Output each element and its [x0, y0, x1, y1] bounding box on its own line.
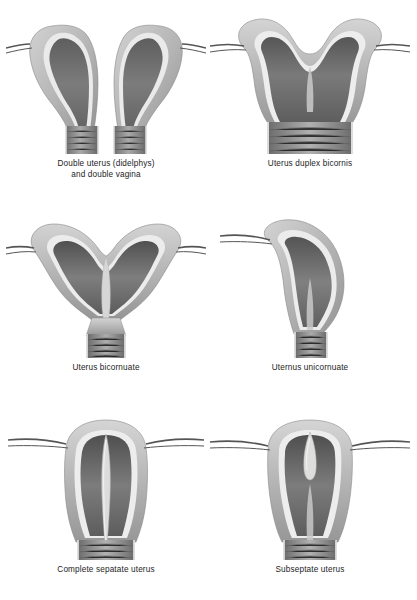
fallopian-tube-right [374, 45, 410, 53]
fallopian-tube-right [176, 247, 206, 255]
figure-caption: Double uterus (didelphys) and double vag… [57, 158, 154, 180]
figure-caption: Complete sepatate uterus [57, 564, 154, 575]
uterine-anomalies-plate: Double uterus (didelphys) and double vag… [0, 0, 417, 600]
left-uterine-horn [30, 25, 98, 130]
figure-complete-septate: Complete sepatate uterus [6, 410, 206, 575]
fallopian-tube-right [180, 44, 206, 53]
figure-caption: Uternus unicornuate [272, 362, 349, 373]
cervix-vagina [78, 540, 134, 560]
illustration-complete-septate [6, 410, 206, 560]
figure-didelphys: Double uterus (didelphys) and double vag… [6, 4, 206, 180]
fallopian-tube-left [210, 45, 246, 53]
figure-duplex-bicornis: Uterus duplex bicornis [210, 4, 410, 169]
figure-caption: Uterus duplex bicornis [268, 158, 352, 169]
fallopian-tube-left [8, 439, 68, 448]
figure-caption: Subseptate uterus [275, 564, 344, 575]
fallopian-tube-left [210, 441, 270, 450]
illustration-duplex-bicornis [210, 4, 410, 154]
fallopian-tube-left [6, 44, 32, 53]
fallopian-tube-left [6, 247, 36, 255]
cervix-vagina-left [66, 126, 98, 154]
illustration-bicornuate [6, 208, 206, 358]
uterine-body-subseptate [268, 420, 353, 542]
illustration-subseptate [210, 410, 410, 560]
uterine-body-bicornuate [31, 224, 181, 336]
single-uterine-horn [264, 220, 344, 334]
cervix-vagina [295, 332, 327, 358]
fallopian-tube-right [144, 439, 204, 448]
figure-caption: Uterus bicornuate [72, 362, 139, 373]
cervix-vagina-right [114, 126, 146, 154]
figure-unicornuate: Uternus unicornuate [210, 208, 410, 373]
right-uterine-horn [114, 25, 182, 130]
figure-subseptate: Subseptate uterus [210, 410, 410, 575]
illustration-didelphys [6, 4, 206, 154]
cervix-vagina [268, 122, 352, 154]
cervix-vagina [284, 540, 336, 560]
figure-bicornuate: Uterus bicornuate [6, 208, 206, 373]
fallopian-tube-left [220, 235, 272, 244]
illustration-unicornuate [210, 208, 410, 358]
fallopian-tube-right [350, 441, 410, 450]
cervix-vagina [87, 334, 125, 358]
uterine-body-septate [65, 420, 148, 544]
uterine-body-bicornis [239, 19, 382, 126]
